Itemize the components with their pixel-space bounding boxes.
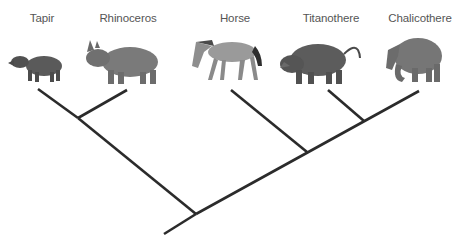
branch-tapir-rhino-clade	[78, 118, 196, 214]
rhinoceros-illustration	[86, 40, 158, 84]
chalicothere-illustration	[386, 38, 442, 82]
root-stem	[164, 214, 196, 234]
titanothere-illustration	[280, 44, 360, 84]
tapir-illustration	[8, 56, 62, 82]
branch-titanothere	[328, 90, 364, 121]
branch-tapir	[38, 89, 78, 118]
horse-illustration	[192, 40, 262, 80]
branch-chalicothere-to-root	[196, 91, 419, 214]
branch-rhinoceros	[78, 90, 127, 118]
phylogenetic-tree	[0, 0, 465, 246]
branch-horse	[231, 90, 307, 152]
